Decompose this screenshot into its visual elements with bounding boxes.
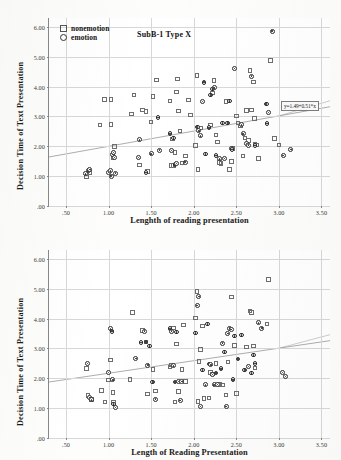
- y-tickmark: [47, 116, 49, 117]
- gridline-horizontal: [49, 57, 330, 58]
- gridline-vertical: [194, 18, 195, 206]
- y-tick-label: 1.00: [34, 173, 45, 180]
- x-tick-label: 2.00: [188, 441, 199, 448]
- gridline-horizontal: [49, 408, 330, 409]
- x-tick-label: 2.00: [188, 209, 199, 216]
- gridline-horizontal: [49, 259, 330, 260]
- y-tick-label: 4.00: [34, 83, 45, 90]
- gridline-vertical: [236, 18, 237, 206]
- y-tick-label: 6.00: [34, 23, 45, 30]
- y-tickmark: [47, 348, 49, 349]
- y-tickmark: [47, 259, 49, 260]
- x-tick-label: 1.00: [103, 209, 114, 216]
- legend-item-emotion: emotion: [60, 33, 109, 42]
- gridline-horizontal: [49, 146, 330, 147]
- plot-area-2: .001.002.003.004.005.006.00.501.001.502.…: [48, 250, 330, 439]
- circle-marker-icon: [60, 34, 67, 41]
- y-tick-label: 3.00: [34, 345, 45, 352]
- y-tickmark: [47, 289, 49, 290]
- gridline-vertical: [321, 18, 322, 206]
- x-tickmark: [279, 438, 280, 440]
- gridline-vertical: [109, 18, 110, 206]
- y-tickmark: [47, 87, 49, 88]
- y-tickmark: [47, 408, 49, 409]
- y-tick-label: 3.00: [34, 113, 45, 120]
- gridline-horizontal: [49, 87, 330, 88]
- chart-panel-2: Decision Time of Text Presentation .001.…: [0, 230, 341, 460]
- gridline-horizontal: [49, 116, 330, 117]
- y-tickmark: [47, 176, 49, 177]
- x-tick-label: 1.50: [146, 441, 157, 448]
- x-tickmark: [151, 206, 152, 208]
- x-tickmark: [66, 438, 67, 440]
- y-tick-label: 6.00: [34, 255, 45, 262]
- y-tickmark: [47, 57, 49, 58]
- gridline-horizontal: [49, 319, 330, 320]
- gridline-horizontal: [49, 289, 330, 290]
- y-tickmark: [47, 146, 49, 147]
- gridline-vertical: [151, 250, 152, 438]
- gridline-horizontal: [49, 206, 330, 207]
- x-tickmark: [109, 206, 110, 208]
- gridline-horizontal: [49, 348, 330, 349]
- x-tickmark: [279, 206, 280, 208]
- equation-callout-1: y=1.49+0.51*x: [281, 101, 319, 111]
- y-tick-label: 2.00: [34, 143, 45, 150]
- y-tick-label: 5.00: [34, 53, 45, 60]
- gridline-horizontal: [49, 438, 330, 439]
- legend-1: nonemotion emotion: [60, 24, 109, 42]
- gridline-vertical: [279, 250, 280, 438]
- x-tick-label: 2.50: [231, 441, 242, 448]
- y-tickmark: [47, 319, 49, 320]
- y-tickmark: [47, 206, 49, 207]
- y-tick-label: .00: [37, 203, 45, 210]
- gridline-vertical: [151, 18, 152, 206]
- trendline-1: [49, 18, 330, 206]
- gridline-vertical: [66, 18, 67, 206]
- x-tick-label: 3.50: [316, 209, 327, 216]
- gridline-vertical: [194, 250, 195, 438]
- y-tickmark: [47, 438, 49, 439]
- x-tick-label: .50: [62, 441, 70, 448]
- gridline-vertical: [321, 250, 322, 438]
- chart-panel-1: Decision Time of Text Presentation .001.…: [0, 0, 341, 230]
- gridline-horizontal: [49, 176, 330, 177]
- x-tick-label: 2.50: [231, 209, 242, 216]
- chart-title-1: SubB-1 Type X: [137, 30, 191, 39]
- square-marker-icon: [60, 25, 67, 32]
- x-tick-label: 3.50: [316, 441, 327, 448]
- scatter-figure: Decision Time of Text Presentation .001.…: [0, 0, 341, 460]
- y-axis-label: Decision Time of Text Presentation: [16, 268, 25, 426]
- y-tick-label: 5.00: [34, 285, 45, 292]
- x-tickmark: [194, 206, 195, 208]
- x-tickmark: [321, 438, 322, 440]
- y-tick-label: 4.00: [34, 315, 45, 322]
- x-tickmark: [321, 206, 322, 208]
- y-axis-label: Decision Time of Text Presentation: [16, 40, 25, 190]
- plot-area-1: .001.002.003.004.005.006.00.501.001.502.…: [48, 18, 330, 207]
- gridline-vertical: [236, 250, 237, 438]
- legend-label: emotion: [71, 33, 97, 42]
- x-axis-label: Length of Reading Presentation: [49, 448, 330, 457]
- y-tickmark: [47, 27, 49, 28]
- legend-label: nonemotion: [71, 24, 109, 33]
- x-tickmark: [194, 438, 195, 440]
- x-tick-label: 3.00: [273, 441, 284, 448]
- x-tickmark: [66, 206, 67, 208]
- gridline-vertical: [279, 18, 280, 206]
- x-tick-label: 1.50: [146, 209, 157, 216]
- x-tickmark: [151, 438, 152, 440]
- gridline-vertical: [109, 250, 110, 438]
- x-axis-label: Lenghth of reading presentation: [49, 216, 330, 225]
- gridline-horizontal: [49, 378, 330, 379]
- x-tickmark: [236, 438, 237, 440]
- trendline-2: [49, 250, 330, 438]
- y-tickmark: [47, 378, 49, 379]
- y-tick-label: .00: [37, 435, 45, 442]
- x-tickmark: [109, 438, 110, 440]
- x-tick-label: 1.00: [103, 441, 114, 448]
- y-tick-label: 2.00: [34, 375, 45, 382]
- gridline-vertical: [66, 250, 67, 438]
- legend-item-nonemotion: nonemotion: [60, 24, 109, 33]
- x-tickmark: [236, 206, 237, 208]
